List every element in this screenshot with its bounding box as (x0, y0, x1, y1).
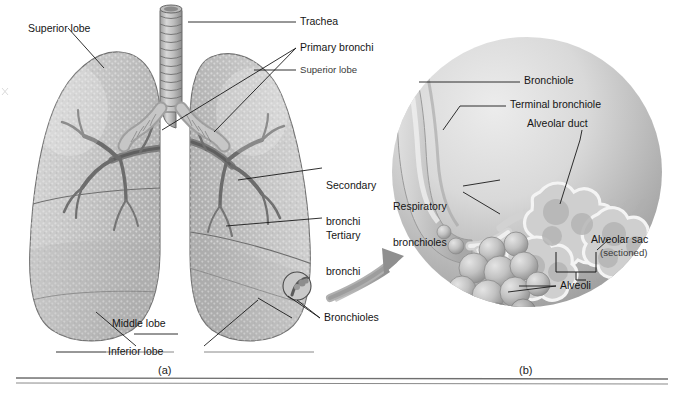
label-alveoli: Alveoli (560, 280, 591, 292)
right-lung (180, 40, 330, 360)
edge-artifact (2, 88, 8, 95)
label-superior-lobe-left: Superior lobe (28, 23, 90, 35)
label-respiratory-bronchioles: Respiratory bronchioles (393, 176, 447, 272)
caption-panel-b: (b) (519, 364, 532, 376)
label-alveolar-sac: Alveolar sac (591, 234, 648, 246)
caption-panel-a: (a) (158, 364, 171, 376)
label-superior-lobe-right: Superior lobe (300, 64, 357, 76)
label-bronchioles: Bronchioles (324, 312, 379, 324)
label-bronchiole: Bronchiole (524, 75, 574, 87)
label-respiratory-bronchioles-line1: Respiratory (393, 200, 447, 212)
label-tertiary-bronchi-line2: bronchi (326, 265, 360, 277)
label-tertiary-bronchi-line1: Tertiary (326, 229, 360, 241)
label-middle-lobe: Middle lobe (112, 318, 166, 330)
label-respiratory-bronchioles-line2: bronchioles (393, 236, 447, 248)
bronchiole-inset-circle (283, 272, 311, 300)
label-secondary-bronchi-line1: Secondary (326, 179, 376, 191)
label-trachea: Trachea (300, 16, 338, 28)
label-alveolar-duct: Alveolar duct (527, 118, 588, 130)
respiratory-figure: Superior lobe Trachea Primary bronchi Su… (0, 0, 681, 403)
label-terminal-bronchiole: Terminal bronchiole (510, 99, 601, 111)
label-primary-bronchi: Primary bronchi (300, 42, 374, 54)
label-tertiary-bronchi: Tertiary bronchi (326, 205, 360, 301)
left-lung (20, 40, 180, 360)
label-alveolar-sac-sectioned: (sectioned) (600, 247, 647, 259)
bottom-rule (16, 378, 668, 384)
label-inferior-lobe: Inferior lobe (108, 346, 163, 358)
